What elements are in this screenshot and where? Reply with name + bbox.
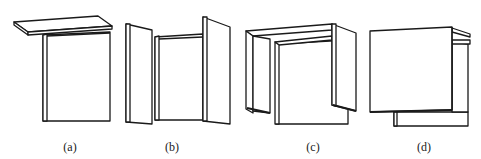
box-top-edge	[452, 40, 470, 44]
label-b: (b)	[165, 140, 179, 154]
box-side	[43, 34, 47, 121]
top-flap	[452, 28, 470, 37]
label-a: (a)	[63, 140, 76, 154]
cover-left-wall	[253, 36, 270, 113]
box-lower	[394, 112, 468, 126]
box-side	[452, 42, 468, 112]
label-c: (c)	[306, 140, 319, 154]
cover-left-edge	[246, 31, 253, 113]
panel-c: (c)	[246, 24, 356, 154]
cover-top	[246, 24, 332, 36]
box-front	[43, 32, 110, 121]
box-front	[155, 34, 203, 120]
panel-d: (d)	[370, 27, 470, 154]
cabinet-diagram: (a) (b) (c) (d)	[0, 0, 481, 159]
panel-a: (a)	[14, 16, 112, 154]
label-d: (d)	[417, 140, 431, 154]
front-panel	[370, 27, 452, 112]
panel-b: (b)	[126, 17, 230, 154]
